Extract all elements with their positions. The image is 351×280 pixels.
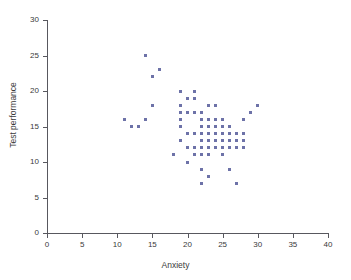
x-tick-label: 0	[37, 241, 57, 249]
plot-area	[47, 20, 328, 233]
data-point	[200, 153, 203, 156]
data-point	[200, 118, 203, 121]
data-point	[214, 146, 217, 149]
y-tick-label: 0	[19, 229, 39, 237]
data-point	[214, 139, 217, 142]
data-point	[214, 125, 217, 128]
data-point	[249, 111, 252, 114]
data-point	[123, 118, 126, 121]
y-tick-label: 5	[19, 194, 39, 202]
x-tick-label: 35	[283, 241, 303, 249]
data-point	[221, 118, 224, 121]
x-tick-label: 5	[72, 241, 92, 249]
x-tick-mark	[117, 234, 118, 238]
data-point	[242, 118, 245, 121]
data-point	[242, 132, 245, 135]
x-tick-label: 10	[107, 241, 127, 249]
data-point	[221, 139, 224, 142]
data-point	[137, 125, 140, 128]
data-point	[193, 90, 196, 93]
x-tick-label: 20	[178, 241, 198, 249]
data-point	[200, 146, 203, 149]
data-point	[207, 139, 210, 142]
y-tick-mark	[43, 91, 47, 92]
x-tick-label: 15	[142, 241, 162, 249]
data-point	[207, 146, 210, 149]
y-tick-mark	[43, 198, 47, 199]
data-point	[144, 54, 147, 57]
data-point	[207, 153, 210, 156]
data-point	[256, 104, 259, 107]
data-point	[179, 111, 182, 114]
data-point	[179, 104, 182, 107]
data-point	[228, 168, 231, 171]
data-point	[179, 125, 182, 128]
y-tick-label: 25	[19, 52, 39, 60]
data-point	[193, 132, 196, 135]
data-point	[214, 118, 217, 121]
data-point	[193, 146, 196, 149]
x-tick-mark	[188, 234, 189, 238]
data-point	[221, 125, 224, 128]
data-point	[242, 146, 245, 149]
data-point	[200, 125, 203, 128]
y-tick-label: 30	[19, 16, 39, 24]
y-axis-line	[47, 20, 48, 234]
data-point	[130, 125, 133, 128]
data-point	[186, 97, 189, 100]
data-point	[235, 182, 238, 185]
data-point	[193, 153, 196, 156]
y-tick-label: 10	[19, 158, 39, 166]
y-axis-title: Test performance	[8, 55, 18, 175]
data-point	[214, 104, 217, 107]
scatter-plot-figure: 051015202530 0510152025303540 Test perfo…	[0, 0, 351, 280]
data-point	[158, 68, 161, 71]
data-point	[207, 104, 210, 107]
data-point	[214, 132, 217, 135]
data-point	[200, 168, 203, 171]
y-tick-mark	[43, 127, 47, 128]
data-point	[193, 97, 196, 100]
data-point	[221, 132, 224, 135]
data-point	[235, 132, 238, 135]
data-point	[186, 146, 189, 149]
data-point	[207, 118, 210, 121]
x-tick-label: 25	[213, 241, 233, 249]
data-point	[228, 125, 231, 128]
data-point	[221, 146, 224, 149]
x-tick-mark	[152, 234, 153, 238]
y-tick-mark	[43, 162, 47, 163]
data-point	[172, 153, 175, 156]
data-point	[186, 111, 189, 114]
data-point	[235, 146, 238, 149]
data-point	[228, 139, 231, 142]
data-point	[242, 139, 245, 142]
y-tick-label: 15	[19, 123, 39, 131]
x-tick-mark	[258, 234, 259, 238]
x-tick-label: 30	[248, 241, 268, 249]
x-tick-mark	[223, 234, 224, 238]
x-axis-title: Anxiety	[0, 260, 351, 270]
data-point	[144, 118, 147, 121]
data-point	[186, 132, 189, 135]
data-point	[207, 175, 210, 178]
x-tick-mark	[82, 234, 83, 238]
x-tick-mark	[328, 234, 329, 238]
data-point	[179, 90, 182, 93]
data-point	[207, 125, 210, 128]
data-point	[151, 104, 154, 107]
data-point	[228, 146, 231, 149]
data-point	[179, 118, 182, 121]
data-point	[200, 111, 203, 114]
data-point	[221, 153, 224, 156]
data-point	[179, 139, 182, 142]
data-point	[186, 161, 189, 164]
data-point	[207, 132, 210, 135]
data-point	[200, 182, 203, 185]
y-tick-label: 20	[19, 87, 39, 95]
y-tick-mark	[43, 20, 47, 21]
x-tick-mark	[47, 234, 48, 238]
x-tick-label: 40	[318, 241, 338, 249]
data-point	[228, 132, 231, 135]
data-point	[235, 139, 238, 142]
